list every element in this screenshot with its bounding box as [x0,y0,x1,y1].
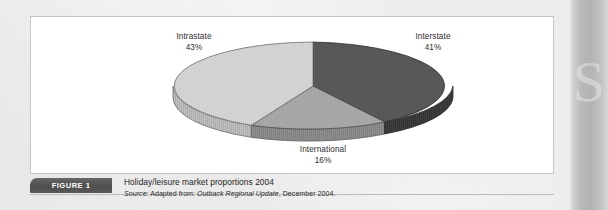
pie-label-intrastate-value: 43% [149,43,239,54]
pie-label-international: International 16% [268,145,378,166]
figure-source-prefix: Source: [124,190,149,198]
pie-label-intrastate-name: Intrastate [149,32,239,43]
pie-label-interstate-name: Interstate [388,32,478,43]
scanned-page: S [0,0,608,210]
figure-panel: Intrastate 43% Interstate 41% Internatio… [30,16,554,174]
pie-label-international-value: 16% [268,156,378,167]
page-watermark-glyph: S [572,48,606,118]
pie-label-interstate: Interstate 41% [388,32,478,53]
pie-label-interstate-value: 41% [388,43,478,54]
pie-label-international-name: International [268,145,378,156]
figure-source-after: , December 2004. [279,190,336,198]
figure-source-line: Source: Adapted from: Outback Regional U… [124,190,554,199]
figure-source-publication: Outback Regional Update [197,190,279,198]
pie-label-intrastate: Intrastate 43% [149,32,239,53]
figure-source-before: Adapted from: [149,190,197,198]
page-edge-band: S [570,0,608,210]
figure-title: Holiday/leisure market proportions 2004 [124,177,554,188]
figure-caption: FIGURE 1 Holiday/leisure market proporti… [30,178,554,208]
pie-chart: Intrastate 43% Interstate 41% Internatio… [31,17,555,175]
caption-text-block: Holiday/leisure market proportions 2004 … [124,177,554,199]
figure-number-badge: FIGURE 1 [30,178,112,193]
